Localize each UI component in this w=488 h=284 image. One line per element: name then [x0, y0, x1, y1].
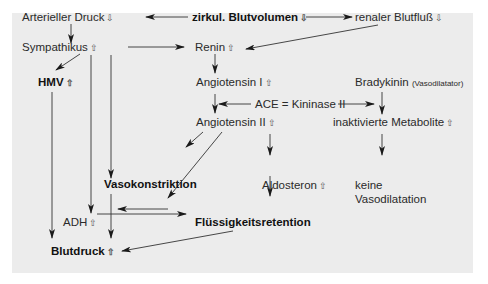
arrow-up-icon: ⇧	[66, 78, 74, 88]
node-label: Arterieller Druck	[22, 11, 104, 23]
arrow-up-icon: ⇧	[107, 247, 115, 257]
node-label: ACE = Kininase II	[255, 98, 345, 110]
node-label: Vasokonstriktion	[104, 178, 197, 190]
node-sympathikus: Sympathikus⇧	[22, 41, 98, 55]
node-label: Bradykinin	[355, 76, 409, 88]
node-label: Vasodilatation	[355, 193, 426, 205]
node-label: zirkul. Blutvolumen	[192, 11, 298, 23]
arrow-up-icon: ⇧	[446, 118, 454, 128]
node-angiotensin-2: Angiotensin II⇧	[196, 116, 276, 130]
node-renaler-blutfluss: renaler Blutfluß⇩	[355, 11, 443, 25]
node-arterieller-druck: Arterieller Druck⇩	[22, 11, 114, 25]
node-vasodilatation: Vasodilatation	[355, 193, 426, 206]
node-label: renaler Blutfluß	[355, 11, 433, 23]
node-bradykinin: Bradykinin (Vasodilatator)	[355, 76, 463, 90]
node-label: keine	[355, 179, 383, 191]
arrow-up-icon: ⇧	[265, 78, 273, 88]
node-label: Sympathikus	[22, 41, 88, 53]
arrow-up-icon: ⇧	[227, 43, 235, 53]
arrow-up-icon: ⇧	[268, 118, 276, 128]
node-ace: ACE = Kininase II	[255, 98, 345, 111]
arrow-up-icon: ⇧	[90, 43, 98, 53]
node-aldosteron: Aldosteron⇧	[262, 179, 327, 193]
node-blutdruck: Blutdruck⇧	[51, 245, 115, 259]
node-note: (Vasodilatator)	[412, 79, 463, 88]
arrow-up-icon: ⇧	[319, 181, 327, 191]
node-label: ADH	[63, 216, 87, 228]
node-label: Flüssigkeitsretention	[195, 216, 311, 228]
node-hmv: HMV⇧	[38, 76, 74, 90]
node-fluessigkeitsretention: Flüssigkeitsretention	[195, 216, 311, 229]
node-adh: ADH⇧	[63, 216, 97, 230]
node-label: inaktivierte Metabolite	[333, 116, 444, 128]
node-label: Renin	[195, 41, 225, 53]
node-label: Blutdruck	[51, 245, 105, 257]
node-label: Aldosteron	[262, 179, 317, 191]
arrow-down-icon: ⇩	[435, 13, 443, 23]
arrow-down-icon: ⇩	[300, 13, 308, 23]
node-renin: Renin⇧	[195, 41, 235, 55]
node-vasokonstriktion: Vasokonstriktion	[104, 178, 197, 191]
node-label: Angiotensin II	[196, 116, 266, 128]
node-blutvolumen: zirkul. Blutvolumen⇩	[192, 11, 308, 25]
node-metabolite: inaktivierte Metabolite⇧	[333, 116, 454, 130]
arrow-down-icon: ⇩	[106, 13, 114, 23]
node-angiotensin-1: Angiotensin I⇧	[196, 76, 273, 90]
node-keine: keine	[355, 179, 383, 192]
arrow-up-icon: ⇧	[89, 218, 97, 228]
node-label: Angiotensin I	[196, 76, 263, 88]
node-label: HMV	[38, 76, 64, 88]
